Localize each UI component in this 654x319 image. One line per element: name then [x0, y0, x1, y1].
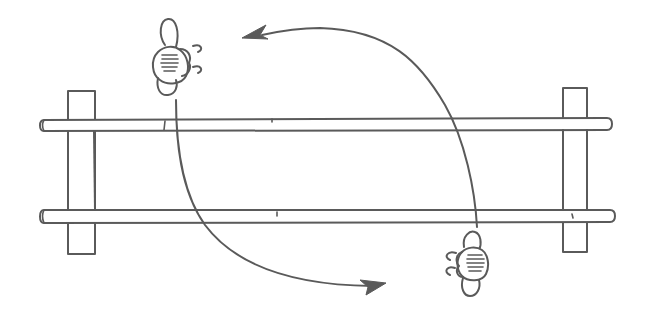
right-post [563, 88, 587, 252]
left-post [68, 91, 95, 254]
arrowhead-left-icon [242, 25, 268, 39]
upper-bar [40, 118, 612, 131]
figure-bottom-right [446, 232, 488, 296]
arrowhead-right-icon [360, 280, 386, 295]
diagram-canvas [0, 0, 654, 319]
figure-top-left [153, 19, 201, 95]
lower-bar [40, 210, 615, 223]
